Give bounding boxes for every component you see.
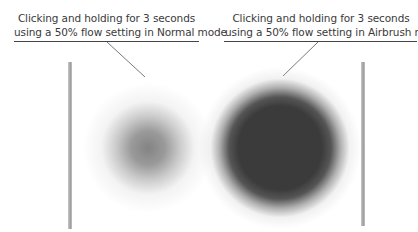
canvas-edge-bar-left [68, 62, 72, 229]
brush-stroke-airbrush-mode [198, 66, 362, 230]
leader-line-normal [107, 42, 145, 77]
brush-stroke-normal-mode [82, 82, 214, 214]
